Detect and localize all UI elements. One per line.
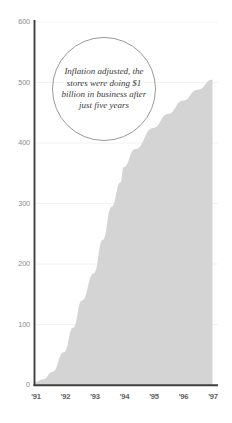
x-tick-label-96: '96 — [172, 392, 196, 401]
x-tick-label-94: '94 — [113, 392, 137, 401]
y-tick-label-600: 600 — [4, 18, 30, 26]
y-tick-label-300: 300 — [4, 200, 30, 208]
x-tick-label-93: '93 — [83, 392, 107, 401]
y-tick-label-500: 500 — [4, 79, 30, 87]
annotation-circle: Inflation adjusted, the stores were doin… — [52, 37, 156, 141]
y-tick-label-200: 200 — [4, 260, 30, 268]
y-tick-label-100: 100 — [4, 321, 30, 329]
x-tick-label-92: '92 — [54, 392, 78, 401]
x-tick-label-97: '97 — [201, 392, 225, 401]
y-tick-label-400: 400 — [4, 139, 30, 147]
y-tick-label-0: 0 — [4, 381, 30, 389]
x-tick-label-95: '95 — [142, 392, 166, 401]
annotation-text: Inflation adjusted, the stores were doin… — [55, 66, 153, 112]
area-chart: 600 500 400 300 200 100 0 '91 '92 '93 '9… — [0, 0, 232, 423]
x-tick-label-91: '91 — [24, 392, 48, 401]
